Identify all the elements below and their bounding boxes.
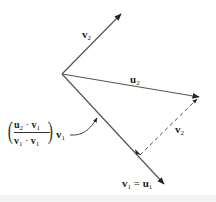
den-dot: · [23,135,31,146]
bottom-band [0,195,216,202]
label-v2-top-sub: 2 [88,34,92,42]
den-v2-sub: 1 [36,140,40,148]
right-paren: ) [48,118,53,144]
left-paren: ( [8,118,13,144]
vector-v2-dashed [140,99,197,155]
num-v-sub: 1 [36,124,40,132]
formula-trailing-v1: v1 [56,129,65,142]
label-equals: = [131,177,143,189]
vector-v1-u1 [62,74,164,184]
pointer-curve [70,118,97,135]
label-u2-sub: 2 [136,79,140,87]
label-v2-top: v2 [82,29,91,42]
fraction-bar [14,132,50,133]
diagram-canvas [0,0,216,202]
label-u2: u2 [130,74,140,87]
vector-v2 [62,14,121,74]
label-v2-dashed-sub: 2 [181,129,185,137]
label-v1-equals-u1: v1 = u1 [122,178,152,191]
formula-denominator: v1 · v1 [14,135,39,148]
label-u1-sub: 1 [149,183,153,191]
label-v2-dashed: v2 [175,124,184,137]
formula-numerator: u2 · v1 [14,119,40,132]
trailing-v-sub: 1 [62,134,66,142]
